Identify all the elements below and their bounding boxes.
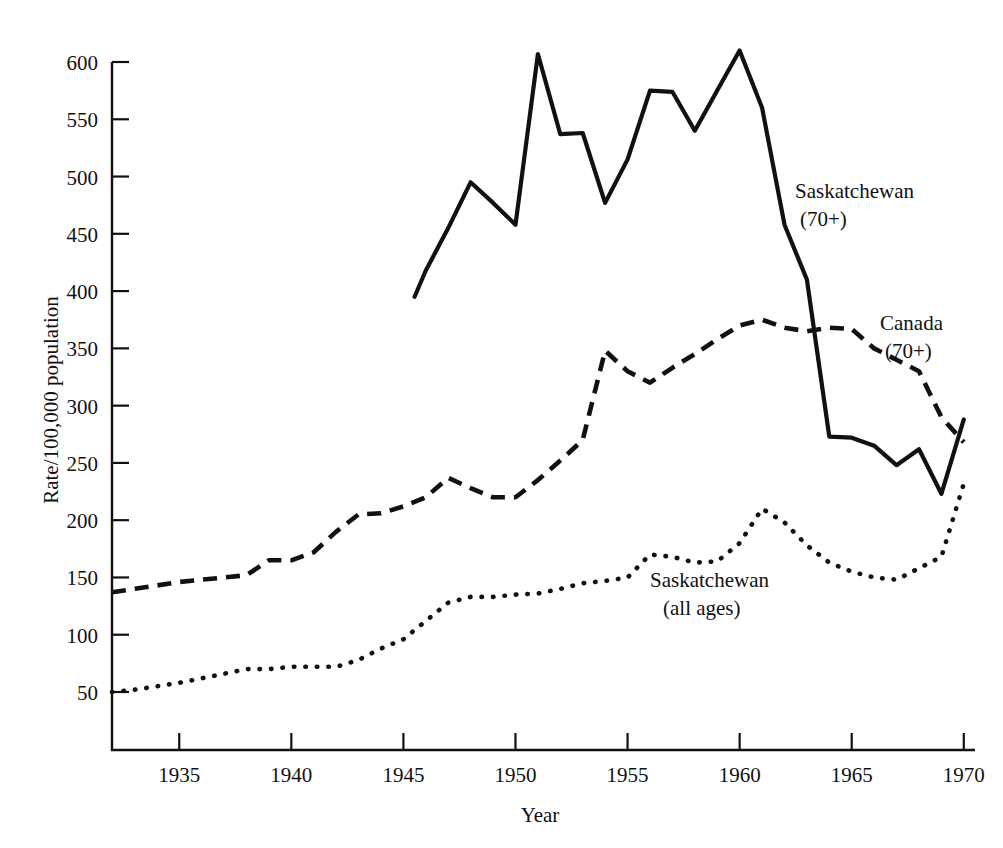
annotation-saskatchewan-all-ages: Saskatchewan (all ages) <box>650 568 769 620</box>
line-chart: 50100150200250300350400450500550600 1935… <box>0 0 1003 848</box>
x-axis-tick-labels: 19351940194519501955196019651970 <box>158 763 985 787</box>
y-tick-label: 200 <box>67 509 99 533</box>
y-tick-label: 150 <box>67 566 99 590</box>
annotation-sask70-line1: Saskatchewan <box>795 179 914 203</box>
y-tick-label: 50 <box>77 681 98 705</box>
annotation-canada-70plus: Canada (70+) <box>880 311 944 363</box>
y-tick-label: 400 <box>67 280 99 304</box>
chart-container: 50100150200250300350400450500550600 1935… <box>0 0 1003 848</box>
annotation-saskall-line2: (all ages) <box>663 596 741 620</box>
x-axis-title: Year <box>521 803 560 827</box>
x-axis-ticks <box>179 733 964 750</box>
x-tick-label: 1955 <box>607 763 649 787</box>
series-line-dashed <box>112 320 964 593</box>
annotation-canada-line1: Canada <box>880 311 944 335</box>
annotation-saskatchewan-70plus: Saskatchewan (70+) <box>795 179 914 231</box>
x-tick-label: 1950 <box>494 763 536 787</box>
series-line-dotted <box>112 484 964 693</box>
y-tick-label: 300 <box>67 395 99 419</box>
series-line-solid <box>415 51 964 494</box>
data-series-group <box>112 51 964 693</box>
y-tick-label: 600 <box>67 51 99 75</box>
annotation-sask70-line2: (70+) <box>800 207 847 231</box>
x-tick-label: 1970 <box>943 763 985 787</box>
x-tick-label: 1940 <box>270 763 312 787</box>
annotation-canada-line2: (70+) <box>885 339 932 363</box>
y-tick-label: 450 <box>67 223 99 247</box>
y-tick-label: 350 <box>67 337 99 361</box>
x-tick-label: 1935 <box>158 763 200 787</box>
axis-lines <box>112 62 975 750</box>
y-tick-label: 550 <box>67 108 99 132</box>
x-tick-label: 1965 <box>831 763 873 787</box>
y-tick-label: 100 <box>67 624 99 648</box>
y-tick-label: 250 <box>67 452 99 476</box>
y-axis-tick-labels: 50100150200250300350400450500550600 <box>67 51 99 705</box>
x-tick-label: 1960 <box>719 763 761 787</box>
y-tick-label: 500 <box>67 166 99 190</box>
y-axis-title: Rate/100,000 population <box>39 296 63 504</box>
y-axis-ticks <box>112 62 129 692</box>
annotation-saskall-line1: Saskatchewan <box>650 568 769 592</box>
x-tick-label: 1945 <box>382 763 424 787</box>
